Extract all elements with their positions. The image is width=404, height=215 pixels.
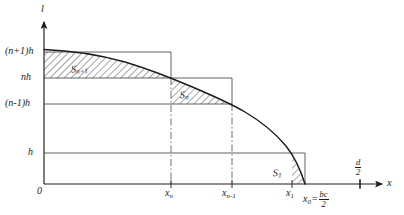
- x-tick-sub: 1: [290, 192, 294, 200]
- y-tick-coeff: (n+1): [5, 45, 28, 56]
- y-tick-coeff: (n-1): [5, 97, 25, 108]
- y-tick-unit: h: [26, 71, 31, 82]
- x-tick-label-xn-1: xn-1: [222, 188, 236, 200]
- fraction-numerator: bc: [319, 190, 329, 199]
- figure-canvas: l x 0 (n+1)h nh (n-1)h h xn xn-1 x1 x0=b…: [0, 0, 404, 215]
- x-tick-sub: n: [169, 192, 173, 200]
- area-label-S-n: Sn: [180, 90, 189, 102]
- origin-label: 0: [37, 186, 42, 196]
- step-box-edges: [171, 52, 305, 184]
- d-over-2-fraction: d2: [355, 158, 361, 176]
- y-tick-label-h: h: [28, 147, 33, 157]
- area-S-n-plus-1: [44, 50, 171, 79]
- y-tick-unit: h: [28, 146, 33, 157]
- y-tick-label-nh: nh: [21, 72, 31, 82]
- fraction-denominator: 2: [319, 199, 329, 209]
- area-sub: 1: [278, 171, 282, 179]
- area-sub: n+1: [76, 67, 88, 76]
- diagram-svg: [0, 0, 404, 215]
- equals-sign: =: [311, 193, 319, 204]
- y-tick-unit: h: [28, 45, 33, 56]
- y-tick-label-n-plus-1-h: (n+1)h: [5, 46, 33, 56]
- x0-equation: x0=bc2: [303, 190, 329, 208]
- area-label-S-1: S1: [273, 168, 282, 180]
- x-axis-label: x: [387, 178, 392, 189]
- fraction-numerator: d: [355, 158, 361, 167]
- bc-over-2-fraction: bc2: [319, 190, 329, 208]
- x-tick-label-xn: xn: [165, 188, 173, 200]
- d-over-2-label: d2: [355, 158, 361, 176]
- x-tick-sub: n-1: [226, 192, 235, 200]
- y-axis-label: l: [41, 4, 44, 15]
- area-sub: n: [185, 93, 189, 101]
- y-tick-label-n-minus-1-h: (n-1)h: [5, 98, 30, 108]
- area-label-S-n-plus-1: Sn+1: [71, 64, 88, 76]
- x-tick-label-x1: x1: [286, 188, 294, 200]
- y-tick-unit: h: [25, 97, 30, 108]
- fraction-denominator: 2: [355, 167, 361, 177]
